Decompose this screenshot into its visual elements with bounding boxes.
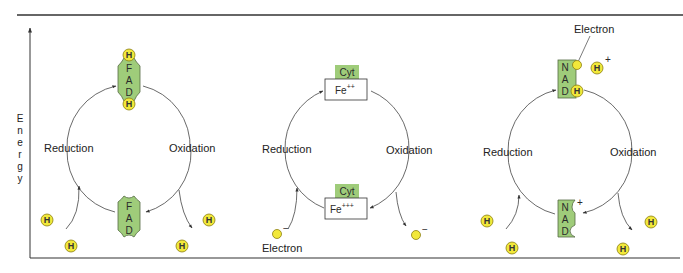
svg-text:D: D bbox=[125, 87, 132, 98]
svg-text:H: H bbox=[594, 63, 601, 73]
redox-diagram: E n e r g y Reduction Oxidation F A D H … bbox=[0, 0, 683, 273]
svg-text:H: H bbox=[620, 244, 627, 254]
svg-text:H: H bbox=[179, 241, 186, 251]
svg-text:H: H bbox=[44, 215, 51, 225]
hydrogen-particle: H bbox=[65, 240, 77, 252]
svg-text:e: e bbox=[17, 137, 23, 148]
oxidation-label: Oxidation bbox=[386, 144, 432, 156]
svg-text:A: A bbox=[126, 75, 133, 86]
svg-text:Cyt: Cyt bbox=[340, 67, 355, 78]
hydrogen-particle: H bbox=[123, 49, 135, 61]
cycle-arc-right-bottom bbox=[583, 152, 632, 213]
svg-text:A: A bbox=[126, 213, 133, 224]
svg-text:H: H bbox=[126, 50, 133, 60]
outgoing-arrow bbox=[618, 193, 632, 230]
cycle-arc-left-top bbox=[508, 90, 556, 152]
cycle-arc-bottom-left bbox=[508, 152, 555, 214]
electron-particle: − bbox=[273, 223, 290, 239]
svg-text:H: H bbox=[126, 99, 133, 109]
cycle-arc-right-bottom bbox=[146, 150, 191, 212]
hydrogen-particle: H bbox=[203, 214, 215, 226]
svg-text:−: − bbox=[422, 224, 428, 235]
svg-text:F: F bbox=[126, 63, 132, 74]
panel-cytochrome: Reduction Oxidation Cyt Fe++ Cyt Fe+++ −… bbox=[262, 65, 432, 254]
svg-text:Cyt: Cyt bbox=[340, 186, 355, 197]
svg-text:n: n bbox=[17, 125, 23, 136]
svg-text:H: H bbox=[574, 86, 581, 96]
svg-text:F: F bbox=[126, 201, 132, 212]
oxidation-label: Oxidation bbox=[610, 146, 656, 158]
svg-text:H: H bbox=[206, 215, 213, 225]
svg-text:r: r bbox=[18, 149, 22, 160]
svg-text:N: N bbox=[561, 202, 568, 213]
cycle-arc-bottom-left bbox=[285, 150, 324, 208]
cycle-arc-bottom-left bbox=[67, 150, 115, 212]
oxidation-label: Oxidation bbox=[169, 142, 215, 154]
outgoing-arrow bbox=[179, 190, 192, 228]
svg-text:E: E bbox=[17, 113, 24, 124]
svg-text:D: D bbox=[561, 86, 568, 97]
hydrogen-particle: H bbox=[176, 240, 188, 252]
energy-axis-label: E n e r g y bbox=[17, 113, 24, 184]
hydrogen-particle: H bbox=[645, 216, 657, 228]
svg-text:D: D bbox=[125, 225, 132, 236]
svg-text:−: − bbox=[283, 223, 289, 234]
svg-text:y: y bbox=[18, 173, 23, 184]
svg-text:A: A bbox=[562, 74, 569, 85]
proton-particle: H + bbox=[591, 54, 611, 74]
svg-text:H: H bbox=[509, 243, 516, 253]
svg-text:g: g bbox=[17, 161, 23, 172]
svg-text:H: H bbox=[68, 241, 75, 251]
electron-label: Electron bbox=[574, 23, 614, 35]
outgoing-arrow bbox=[396, 192, 406, 226]
panel-nad: Reduction Oxidation Electron N A D H H +… bbox=[481, 23, 657, 255]
svg-text:N: N bbox=[561, 62, 568, 73]
reduction-label: Reduction bbox=[262, 143, 312, 155]
hydrogen-particle: H bbox=[41, 214, 53, 226]
reduction-label: Reduction bbox=[44, 142, 94, 154]
incoming-arrow bbox=[506, 195, 519, 229]
hydrogen-particle: H bbox=[571, 85, 583, 97]
incoming-arrow bbox=[288, 188, 297, 229]
svg-text:H: H bbox=[484, 216, 491, 226]
cycle-arc-top-right bbox=[143, 86, 190, 150]
svg-text:+: + bbox=[605, 54, 611, 65]
cycle-arc-top-right bbox=[371, 91, 409, 150]
hydrogen-particle: H bbox=[123, 98, 135, 110]
cycle-arc-left-top bbox=[67, 86, 116, 150]
svg-text:D: D bbox=[561, 226, 568, 237]
hydrogen-particle: H bbox=[617, 243, 629, 255]
cycle-arc-top-right bbox=[584, 90, 632, 152]
hydrogen-particle: H bbox=[506, 242, 518, 254]
reduction-label: Reduction bbox=[483, 146, 533, 158]
electron-leader-line bbox=[578, 36, 590, 62]
svg-text:A: A bbox=[562, 214, 569, 225]
svg-text:H: H bbox=[648, 217, 655, 227]
electron-particle: − bbox=[412, 224, 429, 240]
panel-fad: Reduction Oxidation F A D H H F A D H H bbox=[41, 49, 215, 252]
nad-charge: + bbox=[577, 197, 583, 208]
hydrogen-particle: H bbox=[481, 215, 493, 227]
cycle-arc-left-top bbox=[285, 91, 323, 150]
incoming-arrow bbox=[66, 186, 79, 229]
electron-label: Electron bbox=[262, 242, 302, 254]
cycle-arc-right-bottom bbox=[370, 150, 409, 208]
electron-particle bbox=[573, 61, 582, 70]
